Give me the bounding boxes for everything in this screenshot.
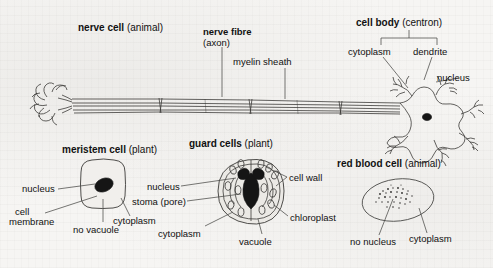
nerve-fibre-axon-label: (axon) <box>203 37 230 48</box>
cell-wall-label: cell wall <box>289 172 322 183</box>
nerve-cell-leader-lines <box>222 47 285 99</box>
nerve-cell-title: nerve cell (animal) <box>78 22 163 33</box>
red-blood-cell-leader-lines <box>379 199 427 235</box>
rbc-stipple <box>375 184 412 208</box>
red-blood-cell-drawing <box>360 175 437 225</box>
cell-membrane-label-line2: membrane <box>9 216 54 227</box>
cell-body-bracket <box>381 30 437 45</box>
cell-body-title: cell body (centron) <box>356 17 442 28</box>
nerve-endings-drawing <box>30 83 72 125</box>
guard-nucleus-label: nucleus <box>147 181 180 192</box>
red-blood-cell-title: red blood cell (animal) <box>337 158 441 169</box>
meristem-cell-title: meristem cell (plant) <box>62 144 157 155</box>
dendrite-label: dendrite <box>413 46 447 57</box>
chloroplast-label: chloroplast <box>290 212 336 223</box>
stoma-pore-label: stoma (pore) <box>132 196 186 207</box>
meristem-cytoplasm-label: cytoplasm <box>113 215 156 226</box>
guard-cells-title: guard cells (plant) <box>189 138 273 149</box>
myelin-sheath-label: myelin sheath <box>233 56 292 67</box>
guard-cytoplasm-label: cytoplasm <box>158 228 201 239</box>
cell-body-cytoplasm-label: cytoplasm <box>348 46 391 57</box>
cell-body-drawing <box>385 76 484 166</box>
vacuole-label: vacuole <box>239 236 272 247</box>
nerve-fibre-label: nerve fibre <box>203 26 252 37</box>
axon-myelin-drawing <box>72 98 400 115</box>
cell-body-nucleus-label: nucleus <box>437 72 470 83</box>
no-nucleus-label: no nucleus <box>350 236 396 247</box>
meristem-nucleus-label: nucleus <box>22 183 55 194</box>
rbc-cytoplasm-label: cytoplasm <box>409 233 452 244</box>
